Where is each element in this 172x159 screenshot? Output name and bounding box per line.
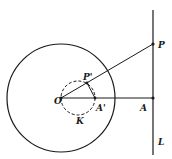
point-P bbox=[151, 42, 154, 45]
label-K: K bbox=[75, 116, 85, 126]
label-L: L bbox=[157, 137, 164, 147]
label-Pprime: P' bbox=[82, 72, 93, 82]
segment-PprimeAprime bbox=[87, 83, 95, 98]
label-O: O bbox=[54, 96, 62, 106]
label-A: A bbox=[139, 103, 147, 113]
label-P: P bbox=[157, 40, 165, 50]
point-Aprime bbox=[94, 97, 97, 100]
inversion-diagram: O P P' A A' K L bbox=[0, 0, 172, 159]
point-Pprime bbox=[86, 82, 89, 85]
label-Aprime: A' bbox=[95, 103, 106, 113]
ray-OP bbox=[61, 44, 153, 98]
point-A bbox=[151, 96, 154, 99]
